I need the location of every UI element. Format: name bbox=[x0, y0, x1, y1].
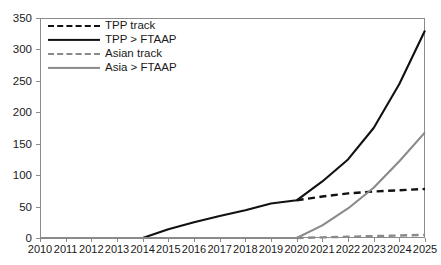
legend-item[interactable]: TPP > FTAAP bbox=[48, 33, 177, 46]
legend-item[interactable]: TPP track bbox=[48, 19, 177, 32]
legend-swatch-icon bbox=[48, 21, 100, 31]
series-line-asia-ftaap bbox=[40, 132, 425, 238]
legend-item-label: TPP track bbox=[105, 20, 155, 32]
legend-item-label: Asian track bbox=[105, 48, 162, 60]
legend-swatch-icon bbox=[48, 63, 100, 73]
line-chart: 050100150200250300350 201020112012201320… bbox=[0, 0, 441, 265]
legend-item[interactable]: Asia > FTAAP bbox=[48, 61, 177, 74]
legend-item-label: Asia > FTAAP bbox=[105, 62, 177, 74]
legend-swatch-icon bbox=[48, 35, 100, 45]
series-line-asian-track bbox=[297, 235, 425, 238]
legend-swatch-icon bbox=[48, 49, 100, 59]
chart-legend: TPP trackTPP > FTAAPAsian trackAsia > FT… bbox=[48, 19, 177, 74]
legend-item-label: TPP > FTAAP bbox=[105, 34, 176, 46]
legend-item[interactable]: Asian track bbox=[48, 47, 177, 60]
